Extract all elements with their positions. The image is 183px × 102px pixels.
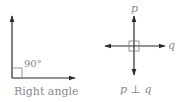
label-q: q xyxy=(168,39,175,52)
right-angle-caption: Right angle xyxy=(14,85,79,98)
angle-label: 90° xyxy=(24,58,42,69)
label-p: p xyxy=(131,2,138,15)
perpendicular-figure: p q p ⊥ q xyxy=(105,2,175,96)
perpendicular-caption: p ⊥ q xyxy=(120,83,151,96)
right-angle-marker xyxy=(12,68,22,78)
right-angle-figure: 90° Right angle xyxy=(12,16,79,98)
diagram-canvas: 90° Right angle p q p ⊥ q xyxy=(0,0,183,102)
